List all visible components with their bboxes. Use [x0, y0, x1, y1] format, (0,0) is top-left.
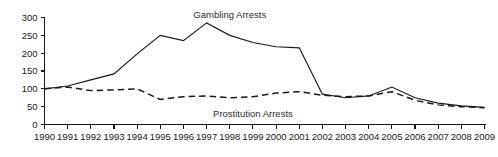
x-tick-label: 2009 — [474, 131, 495, 142]
y-tick-label: 0 — [32, 119, 37, 130]
x-tick-label: 2003 — [335, 131, 356, 142]
x-tick-label: 1999 — [242, 131, 263, 142]
x-tick-label: 1997 — [196, 131, 217, 142]
series-lines — [45, 23, 485, 108]
y-tick-label: 150 — [22, 65, 38, 76]
line-chart: 050100150200250300 199019911992199319941… — [0, 0, 498, 157]
chart-canvas: 050100150200250300 199019911992199319941… — [0, 0, 498, 157]
y-tick-label: 200 — [22, 48, 38, 59]
y-tick-label: 100 — [22, 83, 38, 94]
series-label-gambling-arrests: Gambling Arrests — [193, 9, 266, 20]
series-label-prostitution-arrests: Prostitution Arrests — [213, 108, 293, 119]
x-tick-label: 1995 — [150, 131, 171, 142]
y-axis: 050100150200250300 — [22, 12, 45, 130]
x-tick-label: 1992 — [80, 131, 101, 142]
x-tick-label: 1998 — [219, 131, 240, 142]
x-tick-label: 2004 — [358, 131, 379, 142]
y-tick-label: 50 — [27, 101, 38, 112]
y-tick-label: 250 — [22, 30, 38, 41]
x-tick-label: 2008 — [451, 131, 472, 142]
x-tick-label: 2002 — [312, 131, 333, 142]
series-annotations: Gambling ArrestsProstitution Arrests — [193, 9, 293, 119]
x-tick-label: 2005 — [381, 131, 402, 142]
x-tick-label: 1993 — [103, 131, 124, 142]
x-tick-label: 1996 — [173, 131, 194, 142]
x-tick-label: 2006 — [404, 131, 425, 142]
x-tick-label: 1990 — [34, 131, 55, 142]
series-line-prostitution-arrests — [45, 87, 485, 108]
x-tick-label: 2001 — [289, 131, 310, 142]
x-tick-label: 2000 — [266, 131, 287, 142]
x-tick-label: 1991 — [57, 131, 78, 142]
x-tick-label: 1994 — [127, 131, 148, 142]
x-axis: 1990199119921993199419951996199719981999… — [34, 125, 495, 143]
x-tick-label: 2007 — [428, 131, 449, 142]
y-tick-label: 300 — [22, 12, 38, 23]
